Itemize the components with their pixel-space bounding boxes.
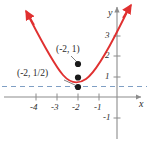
y-tick-label-neg1: -1 <box>103 113 111 122</box>
graph-figure: -4 -3 -2 -1 3 2 1 -1 x y (-2, 1) (-2, 1/… <box>0 0 149 144</box>
x-axis-label: x <box>139 99 143 109</box>
data-point-lower <box>75 84 81 90</box>
y-tick-label-1: 1 <box>105 72 110 81</box>
leader-line-point-1 <box>71 56 77 62</box>
x-tick-label-neg4: -4 <box>30 103 38 112</box>
parabola-right-arrow <box>123 5 131 18</box>
x-tick-label-neg2: -2 <box>72 103 80 112</box>
data-point-vertex <box>75 74 81 80</box>
x-tick-label-neg3: -3 <box>51 103 59 112</box>
y-tick-label-3: 3 <box>105 31 110 40</box>
parabola-left-arrow <box>26 11 34 25</box>
y-tick-label-2: 2 <box>105 51 110 60</box>
y-axis-label: y <box>108 8 112 18</box>
data-point-upper <box>75 61 81 67</box>
annotation-point-1: (-2, 1) <box>56 45 80 55</box>
x-tick-label-neg1: -1 <box>94 103 102 112</box>
annotation-point-half: (-2, 1/2) <box>17 69 48 79</box>
